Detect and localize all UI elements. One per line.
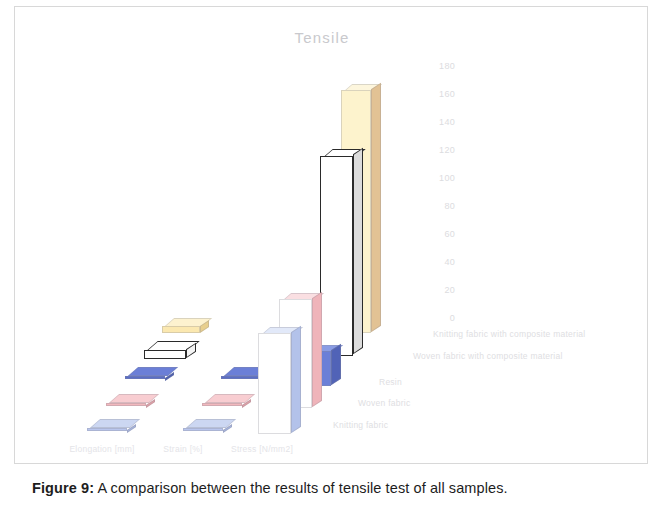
bar-elongation-knitting [87, 421, 127, 431]
figure-caption-text: A comparison between the results of tens… [97, 480, 507, 496]
axis-tick-0: 0 [421, 313, 455, 323]
bar-side-face [353, 148, 363, 355]
axis-tick-60: 60 [421, 229, 455, 239]
axis-tick-40: 40 [421, 257, 455, 267]
axis-tick-140: 140 [421, 117, 455, 127]
category-label-elongation: Elongation [mm] [59, 444, 145, 455]
figure-caption-label: Figure 9: [32, 480, 94, 496]
bar-side-face [331, 344, 341, 386]
bar-side-face [312, 292, 322, 408]
bar-front-face [320, 156, 353, 356]
bar-front-face [221, 376, 261, 379]
bar-front-face [202, 403, 242, 406]
bar-strain-woven [202, 396, 242, 406]
bar-front-face [144, 350, 186, 359]
category-label-stress: Stress [N/mm2] [219, 444, 305, 455]
bar-elongation-woven [106, 396, 146, 406]
axis-tick-120: 120 [421, 145, 455, 155]
axis-tick-20: 20 [421, 285, 455, 295]
bar-front-face [162, 326, 200, 333]
chart-title: Tensile [15, 29, 647, 46]
series-label-woven: Woven fabric [358, 398, 410, 408]
bar-strain-knitting [183, 421, 223, 431]
bar-front-face [106, 403, 146, 406]
series-label-resin: Resin [379, 377, 402, 387]
axis-tick-100: 100 [421, 173, 455, 183]
value-axis: 180 160 140 120 100 80 60 40 20 0 [413, 61, 473, 341]
series-label-knitting-composite: Knitting fabric with composite material [433, 329, 585, 339]
bar-side-face [371, 83, 381, 333]
series-label-woven-composite: Woven fabric with composite material [413, 351, 563, 361]
bar-side-face [291, 326, 301, 434]
category-label-strain: Strain [%] [143, 444, 223, 455]
bar-front-face [183, 428, 223, 431]
bar-front-face [87, 428, 127, 431]
bar-front-face [125, 376, 165, 379]
axis-tick-80: 80 [421, 201, 455, 211]
bar-elongation-resin [125, 369, 165, 379]
bar-front-face [258, 333, 291, 434]
figure-frame: Tensile 180 160 140 120 100 80 60 40 20 … [14, 6, 648, 464]
bar-elongation-woven-composite [144, 341, 186, 359]
chart-plot-area: Tensile 180 160 140 120 100 80 60 40 20 … [15, 7, 647, 463]
axis-tick-180: 180 [421, 61, 455, 71]
figure-caption: Figure 9: A comparison between the resul… [32, 480, 632, 496]
bar-strain-resin [221, 369, 261, 379]
bar-elongation-knitting-composite [162, 319, 200, 333]
bar-stress-woven-composite [320, 152, 353, 356]
axis-tick-160: 160 [421, 89, 455, 99]
bar-stress-knitting [258, 329, 291, 434]
series-label-knitting: Knitting fabric [333, 420, 388, 430]
